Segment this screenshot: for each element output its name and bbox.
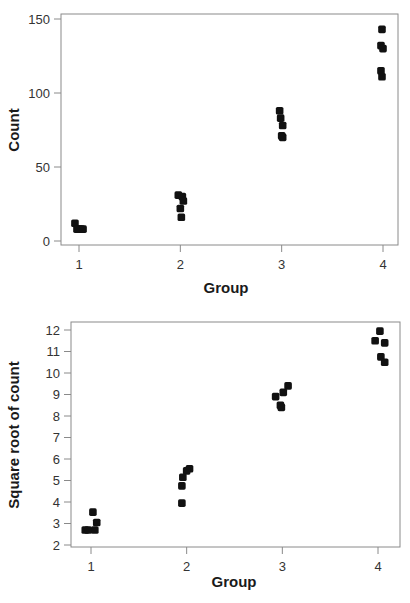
plot-frame — [71, 322, 400, 547]
data-point — [84, 526, 92, 534]
x-tick-label: 4 — [374, 559, 381, 574]
x-tick-label: 2 — [183, 559, 190, 574]
data-point — [378, 26, 386, 34]
y-tick-label: 8 — [53, 409, 60, 424]
data-point — [91, 526, 99, 534]
data-point — [81, 526, 89, 534]
data-point — [272, 393, 280, 401]
plot-frame — [61, 14, 398, 245]
y-axis: 050100150 — [28, 12, 61, 249]
count-scatter-chart: 050100150 1234 Count Group — [0, 0, 410, 300]
x-tick-label: 4 — [379, 257, 386, 272]
data-point — [186, 465, 194, 473]
y-tick-label: 50 — [36, 160, 50, 175]
data-point — [381, 358, 389, 366]
x-tick-label: 3 — [278, 257, 285, 272]
y-tick-label: 10 — [46, 366, 60, 381]
x-axis-title: Group — [204, 279, 249, 296]
data-point — [284, 382, 292, 390]
y-tick-label: 11 — [47, 344, 61, 359]
data-point — [79, 225, 87, 233]
data-point — [277, 114, 285, 122]
data-point — [93, 519, 101, 527]
x-axis-title: Group — [212, 573, 257, 590]
x-axis: 1234 — [75, 245, 386, 272]
data-point — [177, 205, 185, 213]
x-tick-label: 1 — [75, 257, 82, 272]
data-point — [277, 401, 285, 409]
data-point — [178, 499, 186, 507]
y-tick-label: 6 — [53, 452, 60, 467]
data-points — [71, 26, 387, 233]
data-point — [279, 389, 287, 397]
data-point — [178, 214, 186, 222]
x-tick-label: 3 — [279, 559, 286, 574]
data-point — [276, 107, 284, 115]
y-axis-title: Count — [5, 108, 22, 151]
data-point — [89, 508, 97, 516]
x-axis: 1234 — [87, 547, 381, 574]
data-point — [279, 134, 287, 142]
data-point — [180, 197, 188, 205]
data-point — [377, 353, 385, 361]
data-point — [179, 473, 187, 481]
data-point — [371, 337, 379, 345]
data-point — [379, 45, 387, 53]
y-tick-label: 150 — [28, 12, 50, 27]
data-point — [376, 327, 384, 335]
y-tick-label: 0 — [43, 234, 50, 249]
data-point — [278, 404, 286, 412]
y-tick-label: 100 — [28, 86, 50, 101]
x-tick-label: 1 — [87, 559, 94, 574]
data-point — [183, 467, 191, 475]
y-tick-label: 4 — [53, 495, 60, 510]
data-point — [381, 339, 389, 347]
y-axis-title: Square root of count — [5, 361, 22, 509]
y-tick-label: 7 — [53, 430, 60, 445]
x-tick-label: 2 — [177, 257, 184, 272]
y-tick-label: 3 — [53, 516, 60, 531]
y-tick-label: 2 — [53, 538, 60, 553]
data-points — [81, 327, 388, 533]
y-tick-label: 5 — [53, 473, 60, 488]
data-point — [279, 122, 287, 130]
y-axis: 23456789101112 — [46, 323, 71, 553]
data-point — [178, 482, 186, 490]
data-point — [378, 73, 386, 81]
y-tick-label: 9 — [53, 387, 60, 402]
y-tick-label: 12 — [46, 323, 60, 338]
